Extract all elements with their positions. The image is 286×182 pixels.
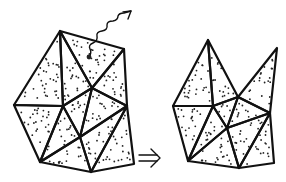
stipple-dot — [82, 81, 84, 83]
stipple-dot — [96, 97, 98, 99]
stipple-dot — [88, 147, 90, 149]
stipple-dot — [33, 88, 35, 90]
stipple-dot — [260, 72, 262, 74]
stipple-dot — [98, 64, 100, 66]
stipple-dot — [77, 147, 79, 149]
stipple-dot — [188, 127, 190, 129]
stipple-dot — [191, 117, 193, 119]
stipple-dot — [113, 72, 115, 74]
stipple-dot — [33, 122, 35, 124]
particle-marker-icon — [87, 55, 92, 60]
stipple-dot — [265, 131, 267, 133]
stipple-dot — [49, 161, 51, 163]
stipple-dot — [118, 160, 120, 162]
stipple-dot — [38, 74, 40, 76]
stipple-dot — [196, 70, 198, 72]
stipple-dot — [105, 158, 107, 160]
stipple-dot — [185, 135, 187, 137]
stipple-dot — [44, 88, 46, 90]
stipple-dot — [200, 144, 202, 146]
stipple-dot — [47, 62, 49, 64]
stipple-dot — [69, 127, 71, 129]
stipple-dot — [268, 147, 270, 149]
stipple-dot — [238, 112, 240, 114]
stipple-dot — [35, 121, 37, 123]
stipple-dot — [69, 70, 71, 72]
stipple-dot — [243, 153, 245, 155]
stipple-dot — [74, 62, 76, 64]
stipple-dot — [89, 77, 91, 79]
stipple-dot — [85, 94, 87, 96]
stipple-dot — [115, 139, 117, 141]
stipple-dot — [267, 153, 269, 155]
stipple-dot — [207, 70, 209, 72]
stipple-dot — [72, 39, 74, 41]
stipple-dot — [261, 95, 263, 97]
stipple-dot — [265, 134, 267, 136]
stipple-dot — [53, 79, 55, 81]
stipple-dot — [103, 54, 105, 56]
stipple-dot — [92, 77, 94, 79]
stipple-dot — [46, 117, 48, 119]
stipple-dot — [113, 102, 115, 104]
stipple-dot — [224, 86, 226, 88]
stipple-dot — [259, 134, 261, 136]
stipple-dot — [228, 92, 230, 94]
stipple-dot — [267, 80, 269, 82]
stipple-dot — [45, 95, 47, 97]
stipple-dot — [43, 110, 45, 112]
stipple-dot — [45, 83, 47, 85]
stipple-dot — [76, 88, 78, 90]
stipple-dot — [61, 162, 63, 164]
stipple-dot — [48, 111, 50, 113]
stipple-dot — [223, 156, 225, 158]
stipple-dot — [250, 122, 252, 124]
stipple-dot — [199, 113, 201, 115]
stipple-dot — [177, 108, 179, 110]
stipple-dot — [84, 160, 86, 162]
stipple-dot — [189, 90, 191, 92]
stipple-dot — [191, 111, 193, 113]
stipple-dot — [64, 140, 66, 142]
mesh-figure — [0, 0, 286, 182]
stipple-dot — [196, 110, 198, 112]
stipple-dot — [245, 109, 247, 111]
stipple-dot — [113, 136, 115, 138]
stipple-dot — [210, 133, 212, 135]
stipple-dot — [70, 125, 72, 127]
stipple-dot — [72, 104, 74, 106]
stipple-dot — [71, 76, 73, 78]
stipple-dot — [108, 133, 110, 135]
stipple-dot — [79, 54, 81, 56]
stipple-dot — [71, 111, 73, 113]
stipple-dot — [56, 41, 58, 43]
stipple-dot — [183, 115, 185, 117]
stipple-dot — [40, 80, 42, 82]
stipple-dot — [250, 124, 252, 126]
stipple-dot — [87, 42, 89, 44]
stipple-dot — [213, 79, 215, 81]
stipple-dot — [203, 87, 205, 89]
stipple-dot — [32, 113, 34, 115]
stipple-dot — [114, 50, 116, 52]
stipple-dot — [237, 116, 239, 118]
stipple-dot — [103, 85, 105, 87]
stipple-dot — [89, 70, 91, 72]
stipple-dot — [76, 45, 78, 47]
stipple-dot — [201, 160, 203, 162]
stipple-dot — [47, 149, 49, 151]
stipple-dot — [79, 105, 81, 107]
left-mesh-before — [14, 31, 134, 172]
stipple-dot — [88, 120, 90, 122]
stipple-dot — [120, 95, 122, 97]
stipple-dot — [192, 120, 194, 122]
stipple-dot — [48, 146, 50, 148]
stipple-dot — [98, 132, 100, 134]
stipple-dot — [106, 156, 108, 158]
stipple-dot — [95, 72, 97, 74]
stipple-dot — [208, 91, 210, 93]
stipple-dot — [88, 142, 90, 144]
stipple-dot — [111, 118, 113, 120]
stipple-dot — [39, 67, 41, 69]
stipple-dot — [68, 128, 70, 130]
